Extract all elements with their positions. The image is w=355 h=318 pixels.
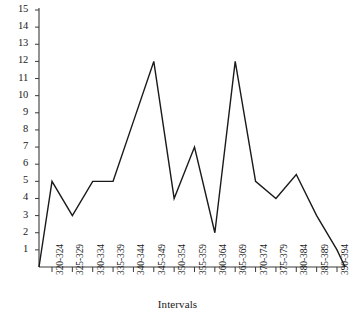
y-tick-label: 4	[6, 192, 28, 203]
y-tick-label: 3	[6, 210, 28, 221]
y-tick-label: 7	[6, 141, 28, 152]
x-tick-label: 360-364	[219, 244, 229, 275]
x-axis-ticks	[52, 267, 337, 272]
x-tick-label: 345-349	[158, 244, 168, 275]
y-tick-label: 11	[6, 73, 28, 84]
x-tick-label: 370-374	[260, 244, 270, 275]
x-tick-label: 330-334	[97, 244, 107, 275]
x-tick-label: 335-339	[117, 244, 127, 275]
frequency-polygon-chart: 123456789101112131415 320-324325-329330-…	[0, 0, 355, 318]
data-series-line	[39, 61, 345, 267]
y-tick-label: 6	[6, 158, 28, 169]
y-tick-label: 5	[6, 175, 28, 186]
y-tick-label: 1	[6, 244, 28, 255]
y-tick-label: 14	[6, 21, 28, 32]
x-tick-label: 390-394	[341, 244, 351, 275]
y-tick-label: 8	[6, 124, 28, 135]
x-tick-label: 365-369	[239, 244, 249, 275]
y-tick-label: 13	[6, 38, 28, 49]
y-axis-ticks	[35, 10, 39, 250]
y-tick-label: 2	[6, 227, 28, 238]
x-tick-label: 385-389	[321, 244, 331, 275]
x-tick-label: 355-359	[199, 244, 209, 275]
x-tick-label: 325-329	[76, 244, 86, 275]
x-tick-label: 350-354	[178, 244, 188, 275]
x-tick-label: 380-384	[300, 244, 310, 275]
x-tick-label: 340-344	[137, 244, 147, 275]
y-tick-label: 15	[6, 4, 28, 15]
y-tick-label: 12	[6, 55, 28, 66]
y-tick-label: 9	[6, 107, 28, 118]
x-tick-label: 375-379	[280, 244, 290, 275]
x-axis-title: Intervals	[0, 298, 355, 310]
y-tick-label: 10	[6, 90, 28, 101]
x-tick-label: 320-324	[56, 244, 66, 275]
